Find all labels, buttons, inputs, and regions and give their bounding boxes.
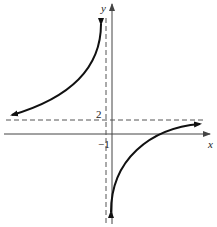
curve-upper-left-branch (12, 24, 101, 115)
curve-lower-right-branch (111, 124, 200, 212)
function-graph: y x 2 −1 (0, 0, 217, 227)
vertical-asymptote-label: −1 (98, 138, 110, 150)
graph-canvas: y x 2 −1 (0, 0, 217, 227)
x-axis-label: x (207, 138, 213, 150)
y-axis-label: y (100, 2, 106, 14)
horizontal-asymptote-label: 2 (96, 108, 102, 120)
